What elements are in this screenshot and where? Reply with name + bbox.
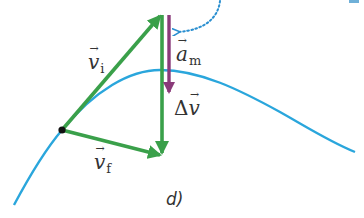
partial-corner-icon	[349, 0, 359, 3]
dotted-pointer-arrow	[178, 1, 220, 32]
label-a-mean: am	[176, 44, 201, 64]
label-delta-v: Δv	[174, 98, 200, 118]
figure-caption: d)	[166, 189, 183, 209]
position-point	[58, 126, 65, 133]
label-v-initial: vi	[88, 52, 104, 72]
label-v-final: vf	[94, 152, 111, 172]
trajectory-curve	[14, 70, 355, 205]
velocity-initial-vector	[62, 16, 160, 130]
